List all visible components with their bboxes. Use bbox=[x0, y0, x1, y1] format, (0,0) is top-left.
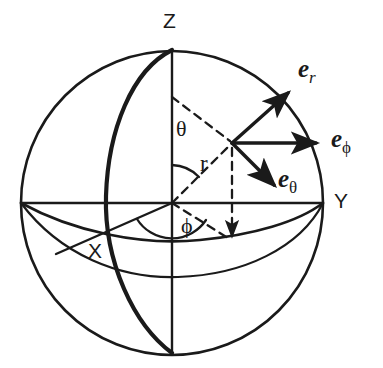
vector-label-e-theta-base: e bbox=[278, 165, 289, 192]
axis-label-y: Y bbox=[334, 190, 348, 211]
axis-label-x: X bbox=[88, 240, 102, 261]
angle-label-theta: θ bbox=[176, 118, 187, 140]
vector-label-e-r: er bbox=[298, 56, 316, 86]
vector-label-e-phi: eϕ bbox=[331, 126, 351, 156]
e-r-vector-arrow bbox=[232, 93, 288, 143]
spherical-coordinates-figure: Z X Y θ ϕ r er eϕ eθ bbox=[0, 0, 383, 368]
vector-label-e-phi-base: e bbox=[331, 125, 342, 152]
front-meridian-arc bbox=[106, 50, 172, 353]
theta-angle-arc bbox=[172, 165, 199, 177]
vector-label-e-r-base: e bbox=[298, 55, 309, 82]
radius-label-r: r bbox=[200, 152, 208, 175]
angle-label-phi: ϕ bbox=[181, 215, 193, 237]
vector-label-e-r-sub: r bbox=[309, 68, 316, 87]
vector-label-e-theta: eθ bbox=[278, 166, 297, 196]
vector-label-e-phi-sub: ϕ bbox=[342, 138, 351, 157]
e-theta-vector-arrow bbox=[232, 143, 274, 185]
x-axis-line bbox=[56, 203, 172, 254]
axis-label-z: Z bbox=[163, 10, 176, 31]
vector-label-e-theta-sub: θ bbox=[289, 178, 297, 197]
diagram-canvas bbox=[0, 0, 383, 368]
